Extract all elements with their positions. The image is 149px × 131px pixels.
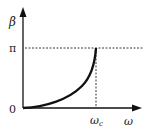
chart-canvas: β π 0 ωc ω	[0, 0, 149, 131]
x-axis-arrow-icon	[132, 105, 142, 112]
y-axis-arrow-icon	[20, 7, 27, 17]
beta-curve	[23, 48, 96, 108]
y-axis-label: β	[8, 15, 16, 29]
origin-label: 0	[9, 103, 16, 116]
pi-tick-label: π	[9, 42, 16, 55]
x-axis-label: ω	[124, 115, 133, 128]
omega-c-label: ωc	[90, 114, 103, 128]
